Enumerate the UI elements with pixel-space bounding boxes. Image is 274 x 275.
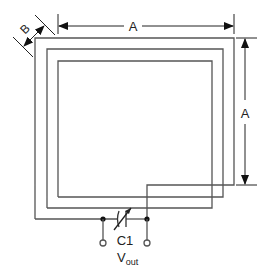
width-label: A	[129, 19, 138, 34]
spacing-label: B	[17, 21, 33, 37]
loop-turn-outer	[35, 38, 234, 219]
loop-wire	[35, 38, 234, 219]
height-label: A	[241, 106, 250, 121]
terminal-right	[144, 240, 150, 246]
loop-turn-inner	[47, 61, 212, 208]
terminal-left	[100, 240, 106, 246]
output-label-main: V	[117, 250, 126, 265]
loop-antenna-diagram: A A B C1 Vout	[0, 0, 274, 275]
output-label-sub: out	[126, 257, 139, 267]
output-label: Vout	[117, 250, 139, 267]
dimension-width	[58, 14, 234, 34]
dimension-spacing	[13, 15, 55, 57]
loop-turn-middle	[47, 49, 223, 208]
capacitor-label: C1	[117, 233, 134, 248]
